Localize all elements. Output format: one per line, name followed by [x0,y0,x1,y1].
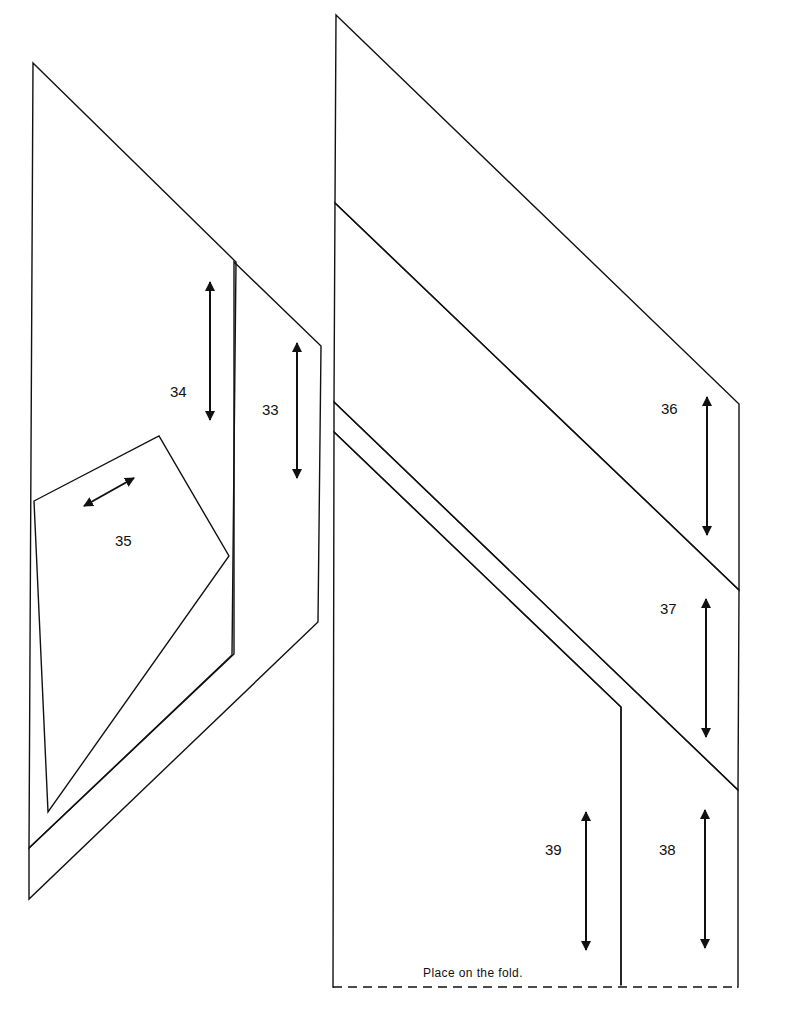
pattern-sheet [0,0,794,1011]
fold-note: Place on the fold. [423,966,523,980]
piece-label-35: 35 [115,533,132,548]
pattern-pieces [29,15,739,987]
pattern-piece-37 [334,203,739,790]
grainline-arrow-icon [84,478,134,506]
pattern-piece-35 [34,436,229,812]
piece-label-36: 36 [661,401,678,416]
piece-label-34: 34 [170,384,187,399]
pattern-piece-39 [333,432,621,987]
piece-label-38: 38 [659,842,676,857]
piece-label-37: 37 [660,601,677,616]
piece-label-39: 39 [545,842,562,857]
pattern-piece-33 [29,262,321,899]
pattern-piece-36 [335,15,739,590]
piece-label-33: 33 [262,402,279,417]
